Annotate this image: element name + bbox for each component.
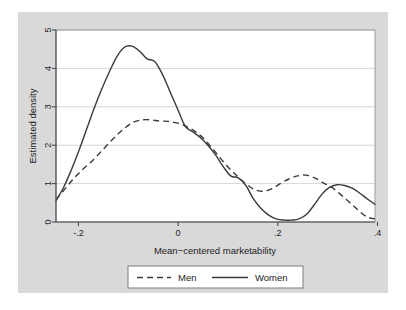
y-tick-label: 4 [43,66,53,71]
x-tick-label: .4 [374,228,382,238]
legend-label-men: Men [178,272,196,283]
density-plot-figure: 012345 Estimated density -.20.2.4 Mean−c… [0,0,406,310]
x-tick-label: -.2 [73,228,84,238]
x-tick-label: .2 [274,228,282,238]
y-tick-label: 0 [43,219,53,224]
plot-area-background [56,30,375,222]
x-axis-title: Mean−centered marketability [154,245,276,256]
y-axis-title: Estimated density [27,88,38,163]
y-tick-label: 3 [43,104,53,109]
y-tick-label: 2 [43,143,53,148]
y-tick-label: 5 [43,27,53,32]
x-tick-label: 0 [176,228,181,238]
legend-label-women: Women [255,272,288,283]
y-tick-label: 1 [43,181,53,186]
legend: Men Women [128,266,303,288]
